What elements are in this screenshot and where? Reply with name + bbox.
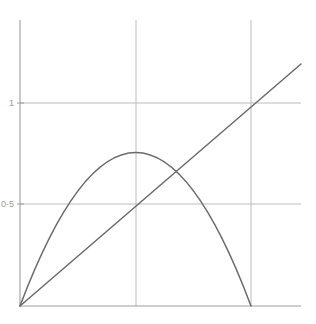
y-tick-label-0-5: 0·5 [1,200,14,209]
gridlines [20,20,301,306]
plot-area [0,0,316,324]
diagonal-line [20,64,301,306]
y-tick-label-1: 1 [9,99,14,108]
chart-figure: 1 0·5 [0,0,316,324]
axes [17,20,301,306]
data-series [20,64,301,306]
